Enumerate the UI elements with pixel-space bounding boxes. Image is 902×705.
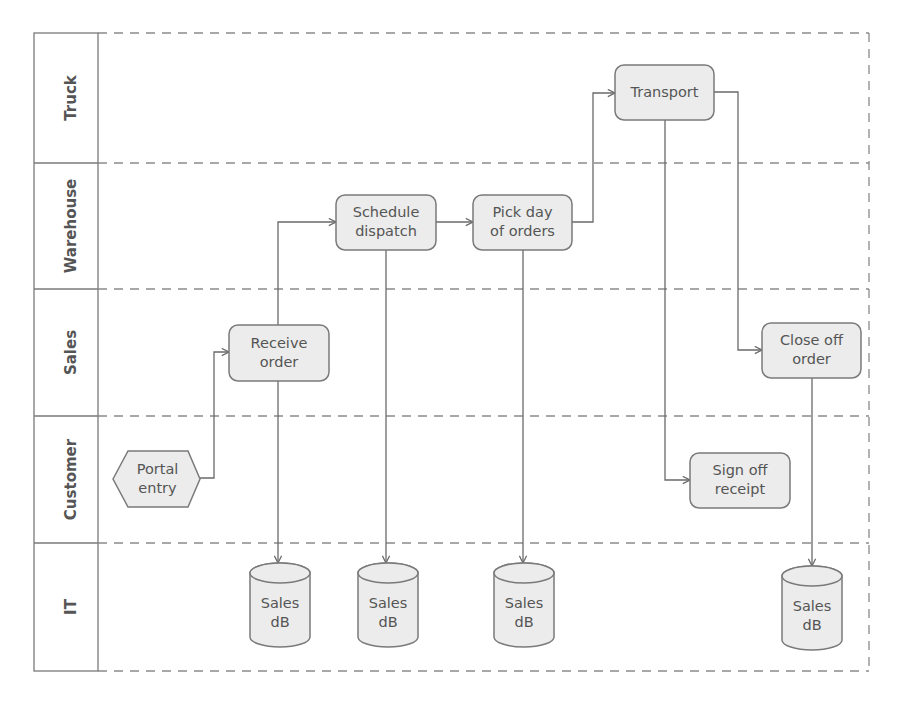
node-sales-db-2: SalesdB bbox=[358, 563, 418, 647]
node-label: receipt bbox=[715, 481, 766, 497]
lane-label-it: IT bbox=[62, 598, 80, 615]
node-label: Sign off bbox=[712, 462, 768, 478]
node-label: Schedule bbox=[353, 204, 420, 220]
flow-arrow-transport-to-close-off-order bbox=[714, 92, 762, 350]
node-label: dB bbox=[378, 614, 397, 630]
node-label: Sales bbox=[261, 595, 300, 611]
node-label: Transport bbox=[629, 84, 698, 100]
node-label: Sales bbox=[505, 595, 544, 611]
lane-label-sales: Sales bbox=[62, 330, 80, 375]
swimlane-diagram: TruckWarehouseSalesCustomerIT Portalentr… bbox=[0, 0, 902, 705]
database-top bbox=[782, 566, 842, 586]
node-label: dispatch bbox=[355, 223, 417, 239]
node-receive-order: Receiveorder bbox=[229, 325, 329, 381]
database-top bbox=[494, 563, 554, 583]
node-label: of orders bbox=[490, 223, 555, 239]
node-label: order bbox=[792, 351, 831, 367]
lane-label-warehouse: Warehouse bbox=[62, 179, 80, 273]
lane-label-customer: Customer bbox=[62, 438, 80, 520]
database-top bbox=[250, 563, 310, 583]
node-pick-day: Pick dayof orders bbox=[473, 195, 572, 250]
nodes-layer: PortalentryReceiveorderScheduledispatchP… bbox=[113, 65, 861, 650]
node-label: Sales bbox=[793, 598, 832, 614]
node-transport: Transport bbox=[615, 65, 714, 120]
flow-arrow-transport-to-sign-off-receipt bbox=[665, 120, 690, 480]
node-label: entry bbox=[138, 480, 177, 496]
node-sales-db-3: SalesdB bbox=[494, 563, 554, 647]
node-label: Close off bbox=[780, 332, 844, 348]
node-label: Portal bbox=[137, 461, 179, 477]
node-close-off-order: Close offorder bbox=[762, 323, 861, 378]
database-top bbox=[358, 563, 418, 583]
flow-arrow-portal-entry-to-receive-order bbox=[200, 352, 229, 478]
flow-arrow-pick-day-to-transport bbox=[572, 93, 615, 222]
node-sales-db-1: SalesdB bbox=[250, 563, 310, 647]
lane-label-truck: Truck bbox=[62, 74, 80, 121]
flow-arrow-receive-order-to-schedule-dispatch bbox=[278, 222, 336, 325]
node-label: dB bbox=[514, 614, 533, 630]
node-label: dB bbox=[270, 614, 289, 630]
node-schedule-dispatch: Scheduledispatch bbox=[336, 195, 436, 250]
node-label: order bbox=[260, 354, 299, 370]
node-sign-off-receipt: Sign offreceipt bbox=[690, 453, 790, 508]
node-label: Pick day bbox=[492, 204, 553, 220]
node-label: dB bbox=[802, 617, 821, 633]
lanes-layer: TruckWarehouseSalesCustomerIT bbox=[34, 33, 869, 671]
node-sales-db-4: SalesdB bbox=[782, 566, 842, 650]
node-portal-entry: Portalentry bbox=[113, 451, 200, 507]
node-label: Receive bbox=[251, 335, 308, 351]
node-label: Sales bbox=[369, 595, 408, 611]
